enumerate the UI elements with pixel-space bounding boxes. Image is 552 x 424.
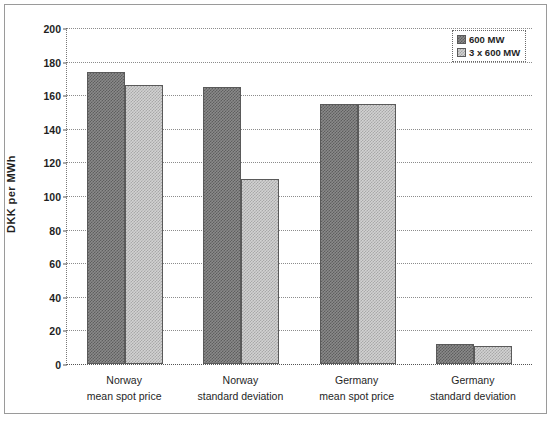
bar [241, 179, 279, 364]
y-tick-label-160: 160 [43, 90, 61, 102]
bar [436, 344, 474, 364]
bar [320, 104, 358, 364]
bar [125, 85, 163, 364]
category-label-line1: Germany [299, 372, 415, 388]
category-label-line2: standard deviation [182, 388, 298, 404]
category-label: Norwaymean spot price [66, 372, 182, 404]
y-tick-label-180: 180 [43, 57, 61, 69]
bars-layer [67, 28, 532, 364]
category-label-line1: Norway [66, 372, 182, 388]
y-tick-label-80: 80 [49, 225, 61, 237]
category-label: Norwaystandard deviation [182, 372, 298, 404]
category-label-line2: mean spot price [299, 388, 415, 404]
y-tick-label-20: 20 [49, 325, 61, 337]
bar [358, 104, 396, 364]
y-tick-label-140: 140 [43, 124, 61, 136]
category-label: Germanymean spot price [299, 372, 415, 404]
legend-label-3x600mw: 3 x 600 MW [469, 47, 520, 58]
y-axis-title: DKK per MWh [5, 134, 17, 254]
category-label-line2: standard deviation [415, 388, 531, 404]
y-tick-label-120: 120 [43, 157, 61, 169]
bar-group [87, 28, 163, 364]
y-tick-label-60: 60 [49, 258, 61, 270]
bar-group [320, 28, 396, 364]
category-axis-labels: Norwaymean spot priceNorwaystandard devi… [66, 372, 532, 416]
category-label-line1: Norway [182, 372, 298, 388]
plot-area: 020406080100120140160180200 [66, 28, 532, 365]
y-tick-mark-0 [63, 365, 67, 366]
chart-legend: 600 MW 3 x 600 MW [452, 30, 526, 62]
legend-swatch-600mw [457, 35, 466, 44]
gridline-0: 0 [67, 364, 532, 365]
legend-item-600mw: 600 MW [457, 34, 520, 45]
category-label-line1: Germany [415, 372, 531, 388]
bar [203, 87, 241, 364]
bar-group [203, 28, 279, 364]
category-label: Germanystandard deviation [415, 372, 531, 404]
y-tick-label-40: 40 [49, 292, 61, 304]
bar [87, 72, 125, 364]
y-tick-label-200: 200 [43, 23, 61, 35]
y-tick-label-100: 100 [43, 191, 61, 203]
legend-item-3x600mw: 3 x 600 MW [457, 47, 520, 58]
bar-group [436, 28, 512, 364]
bar-chart-figure: DKK per MWh 020406080100120140160180200 … [0, 0, 552, 424]
y-tick-label-0: 0 [55, 359, 61, 371]
category-label-line2: mean spot price [66, 388, 182, 404]
legend-swatch-3x600mw [457, 48, 466, 57]
bar [474, 346, 512, 364]
legend-label-600mw: 600 MW [469, 34, 504, 45]
